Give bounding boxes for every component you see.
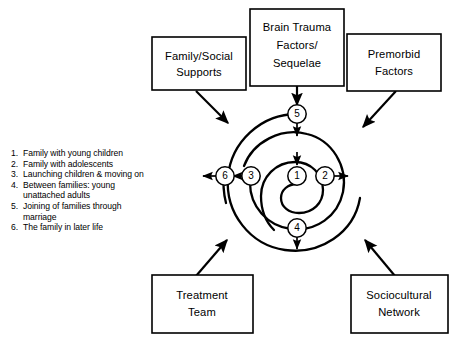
node-4-label: 4 — [294, 222, 300, 233]
box-treatment-team-line-1: Treatment — [176, 289, 228, 301]
box-brain-trauma-factors-line-1: Brain Trauma — [263, 21, 332, 33]
legend-item-text: Between families: young unattached adult… — [23, 180, 147, 201]
legend-item-number: 1. — [11, 148, 23, 159]
legend-item-number: 4. — [11, 180, 23, 191]
box-brain-trauma-factors-line-3: Sequelae — [273, 57, 321, 69]
legend-item-text: Joining of families through marriage — [23, 201, 147, 222]
box-treatment-team[interactable]: Treatment Team — [152, 275, 253, 333]
box-treatment-team-rect — [152, 275, 253, 333]
connector-treatment-team-to-spiral — [196, 240, 227, 276]
box-premorbid-factors-line-1: Premorbid — [368, 48, 421, 60]
node-1: 1 — [288, 167, 306, 185]
legend-item: 2. Family with adolescents — [11, 159, 147, 170]
box-sociocultural-network-rect — [351, 275, 448, 333]
legend-item: 1. Family with young children — [11, 148, 147, 159]
node-5-label: 5 — [294, 108, 300, 119]
connector-premorbid-to-spiral — [363, 91, 396, 127]
box-family-social-supports-line-1: Family/Social — [165, 50, 233, 62]
legend-item-text: Family with adolescents — [23, 159, 147, 170]
connector-family-social-to-spiral — [196, 91, 228, 123]
box-treatment-team-line-2: Team — [188, 306, 216, 318]
node-2-label: 2 — [322, 170, 328, 181]
node-2: 2 — [316, 167, 334, 185]
box-brain-trauma-factors-line-2: Factors/ — [276, 39, 318, 51]
legend-item-number: 6. — [11, 222, 23, 233]
legend-item-text: Launching children & moving on — [23, 169, 147, 180]
box-sociocultural-network[interactable]: Sociocultural Network — [351, 275, 448, 333]
box-premorbid-factors-rect — [347, 34, 441, 91]
box-brain-trauma-factors[interactable]: Brain Trauma Factors/ Sequelae — [250, 9, 344, 86]
legend-item: 3. Launching children & moving on — [11, 169, 147, 180]
connector-sociocultural-to-spiral — [365, 240, 395, 276]
legend-item: 5. Joining of families through marriage — [11, 201, 147, 222]
box-premorbid-factors[interactable]: Premorbid Factors — [347, 34, 441, 91]
diagram-canvas: 5 1 2 3 6 4 — [0, 0, 456, 340]
box-family-social-supports-rect — [152, 37, 246, 90]
node-3-label: 3 — [248, 170, 254, 181]
legend-item-number: 5. — [11, 201, 23, 212]
node-6: 6 — [216, 167, 234, 185]
box-family-social-supports-line-2: Supports — [176, 66, 222, 78]
legend-item-text: Family with young children — [23, 148, 147, 159]
spiral-node-group: 5 1 2 3 6 4 — [216, 105, 334, 237]
legend-item-number: 2. — [11, 159, 23, 170]
box-sociocultural-network-line-2: Network — [378, 306, 420, 318]
node-4: 4 — [288, 219, 306, 237]
legend-item: 4. Between families: young unattached ad… — [11, 180, 147, 201]
legend: 1. Family with young children 2. Family … — [11, 148, 147, 233]
node-1-label: 1 — [294, 170, 300, 181]
node-6-label: 6 — [222, 170, 228, 181]
box-family-social-supports[interactable]: Family/Social Supports — [152, 37, 246, 90]
node-3: 3 — [242, 167, 260, 185]
legend-item: 6. The family in later life — [11, 222, 147, 233]
node-5: 5 — [288, 105, 306, 123]
box-sociocultural-network-line-1: Sociocultural — [366, 289, 431, 301]
legend-item-text: The family in later life — [23, 222, 147, 233]
box-premorbid-factors-line-2: Factors — [375, 65, 413, 77]
legend-item-number: 3. — [11, 169, 23, 180]
